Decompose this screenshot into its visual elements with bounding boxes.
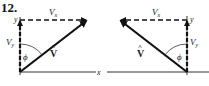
right-phi-label: ϕ	[177, 52, 182, 62]
right-vector-v	[121, 21, 187, 72]
right-diagram: y Vx Vy ϕ V ^	[107, 7, 209, 75]
left-vx-label: Vx	[49, 7, 58, 18]
vector-diagrams: y x Vx Vy ϕ V ^ y Vx Vy ϕ V ^	[0, 0, 209, 86]
left-diagram: y x Vx Vy ϕ V ^	[6, 7, 101, 77]
left-vector-hat: ^	[51, 43, 55, 51]
left-phi-label: ϕ	[23, 52, 28, 62]
left-x-label: x	[96, 68, 101, 77]
left-y-label: y	[13, 15, 18, 24]
right-vector-hat: ^	[138, 43, 142, 51]
right-angle-arc	[165, 44, 187, 55]
right-vy-label: Vy	[190, 37, 199, 48]
right-vx-label: Vx	[152, 7, 161, 18]
right-y-label: y	[189, 15, 194, 24]
left-vy-label: Vy	[6, 37, 15, 48]
